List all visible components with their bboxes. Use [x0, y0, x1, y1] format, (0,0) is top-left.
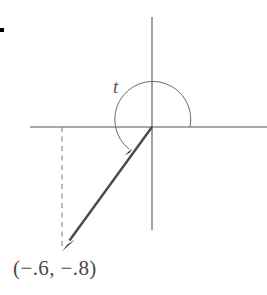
- trigonometry-diagram: [0, 0, 267, 295]
- ray-arrowhead-icon: [62, 239, 75, 251]
- terminal-ray-line: [70, 127, 153, 241]
- figure-canvas: t (−.6, −.8): [0, 0, 267, 295]
- angle-label-t: t: [113, 76, 118, 98]
- angle-arc: [115, 81, 191, 149]
- corner-bullet-marker: [0, 28, 4, 32]
- point-coordinate-label: (−.6, −.8): [13, 256, 97, 281]
